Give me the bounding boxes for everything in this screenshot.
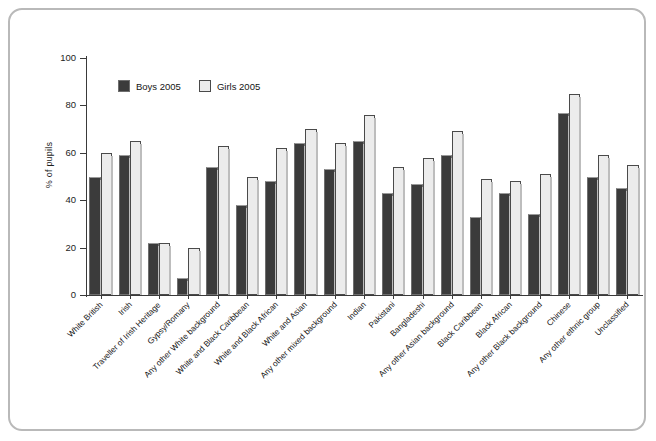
bar-boys-2005 bbox=[587, 177, 598, 296]
y-axis-tick bbox=[80, 295, 87, 296]
bar-group bbox=[349, 58, 378, 295]
y-axis-tick-label-wrap: 20 bbox=[32, 243, 76, 253]
bar-girls-2005 bbox=[540, 174, 551, 295]
bar-group bbox=[525, 58, 554, 295]
bar-shadow bbox=[550, 177, 552, 295]
x-axis-tick bbox=[276, 295, 277, 299]
bar-girls-2005 bbox=[130, 141, 141, 295]
x-axis-tick bbox=[218, 295, 219, 299]
bar-group bbox=[320, 58, 349, 295]
y-axis-tick-label-wrap: 40 bbox=[32, 195, 76, 205]
bar-group bbox=[613, 58, 642, 295]
bar-group bbox=[466, 58, 495, 295]
bar-group bbox=[262, 58, 291, 295]
y-axis-tick-label-wrap: 60 bbox=[32, 148, 76, 158]
bar-boys-2005 bbox=[558, 113, 569, 295]
bar-group bbox=[115, 58, 144, 295]
bar-girls-2005 bbox=[247, 177, 258, 296]
bar-shadow bbox=[403, 170, 405, 295]
x-axis-tick bbox=[364, 295, 365, 299]
y-axis-tick-label: 60 bbox=[36, 148, 76, 158]
bar-girls-2005 bbox=[305, 129, 316, 295]
bar-girls-2005 bbox=[569, 94, 580, 295]
bar-girls-2005 bbox=[452, 131, 463, 295]
bar-shadow bbox=[169, 246, 171, 295]
bar-boys-2005 bbox=[148, 243, 159, 295]
bar-shadow bbox=[491, 182, 493, 295]
y-axis-tick-label: 80 bbox=[36, 100, 76, 110]
bar-girls-2005 bbox=[423, 158, 434, 295]
x-axis-tick bbox=[627, 295, 628, 299]
bar-girls-2005 bbox=[276, 148, 287, 295]
bar-girls-2005 bbox=[188, 248, 199, 295]
y-axis-tick-label-wrap: 80 bbox=[32, 100, 76, 110]
bar-shadow bbox=[462, 134, 464, 295]
x-axis-category-label: Chinese bbox=[546, 301, 573, 328]
x-axis-tick bbox=[159, 295, 160, 299]
bar-group bbox=[232, 58, 261, 295]
bar-girls-2005 bbox=[510, 181, 521, 295]
bar-girls-2005 bbox=[598, 155, 609, 295]
bar-boys-2005 bbox=[265, 181, 276, 295]
bar-group bbox=[496, 58, 525, 295]
bar-boys-2005 bbox=[177, 278, 188, 295]
bar-boys-2005 bbox=[499, 193, 510, 295]
bar-girls-2005 bbox=[364, 115, 375, 295]
bar-group bbox=[145, 58, 174, 295]
x-axis-tick bbox=[247, 295, 248, 299]
y-axis-tick-label-wrap: 0 bbox=[32, 290, 76, 300]
x-axis-category-label: Any other ethnic group bbox=[538, 301, 602, 365]
bar-boys-2005 bbox=[382, 193, 393, 295]
bar-boys-2005 bbox=[441, 155, 452, 295]
bar-girls-2005 bbox=[393, 167, 404, 295]
bar-boys-2005 bbox=[89, 177, 100, 296]
x-axis-tick bbox=[188, 295, 189, 299]
x-axis-tick bbox=[335, 295, 336, 299]
x-axis-tick bbox=[423, 295, 424, 299]
bar-group bbox=[408, 58, 437, 295]
bar-boys-2005 bbox=[324, 169, 335, 295]
bar-girls-2005 bbox=[481, 179, 492, 295]
y-axis-tick-label: 40 bbox=[36, 195, 76, 205]
bar-shadow bbox=[286, 151, 288, 295]
bar-boys-2005 bbox=[294, 143, 305, 295]
y-axis-tick-label: 0 bbox=[36, 290, 76, 300]
bar-group bbox=[583, 58, 612, 295]
bar-group bbox=[174, 58, 203, 295]
bar-boys-2005 bbox=[236, 205, 247, 295]
bar-group bbox=[437, 58, 466, 295]
x-axis-tick bbox=[481, 295, 482, 299]
x-axis-category-label: Irish bbox=[117, 301, 134, 318]
bar-shadow bbox=[228, 149, 230, 295]
bar-shadow bbox=[257, 180, 259, 296]
x-axis-tick bbox=[598, 295, 599, 299]
bar-boys-2005 bbox=[206, 167, 217, 295]
x-axis-tick bbox=[569, 295, 570, 299]
bar-shadow bbox=[140, 144, 142, 295]
bar-shadow bbox=[638, 168, 640, 295]
bar-shadow bbox=[520, 184, 522, 295]
x-axis-tick bbox=[393, 295, 394, 299]
bar-shadow bbox=[579, 97, 581, 295]
bar-group bbox=[291, 58, 320, 295]
bar-girls-2005 bbox=[627, 165, 638, 295]
x-axis-category-label: Indian bbox=[346, 301, 368, 323]
bar-shadow bbox=[374, 118, 376, 295]
bar-girls-2005 bbox=[218, 146, 229, 295]
bar-group bbox=[203, 58, 232, 295]
bar-boys-2005 bbox=[616, 188, 627, 295]
x-axis-tick bbox=[101, 295, 102, 299]
x-axis-tick bbox=[305, 295, 306, 299]
x-axis-tick bbox=[510, 295, 511, 299]
x-axis-category-label: Pakistani bbox=[368, 301, 397, 330]
x-axis-tick bbox=[130, 295, 131, 299]
bar-boys-2005 bbox=[119, 155, 130, 295]
x-axis-tick bbox=[452, 295, 453, 299]
x-axis-category-label: White British bbox=[66, 301, 104, 339]
bar-shadow bbox=[316, 132, 318, 295]
bar-girls-2005 bbox=[335, 143, 346, 295]
bar-shadow bbox=[433, 161, 435, 295]
y-axis-tick-label: 100 bbox=[36, 53, 76, 63]
bar-girls-2005 bbox=[101, 153, 112, 295]
bar-shadow bbox=[111, 156, 113, 295]
